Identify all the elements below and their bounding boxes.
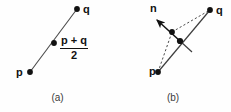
label-q-panel-b: q (216, 5, 223, 16)
segment-p-to-q (158, 10, 210, 72)
vector-midpoint-figure: p q p + q 2 (a) (0, 0, 231, 112)
label-q-panel-a: q (83, 4, 90, 15)
label-p-panel-a: p (16, 67, 23, 78)
label-p-panel-b: p (149, 66, 156, 77)
segment-p-to-upper-node (158, 32, 172, 72)
panel-b: p q n (b) (115, 0, 231, 112)
panel-a: p q p + q 2 (a) (0, 0, 115, 112)
arrow-normal-n (157, 20, 180, 41)
label-midpoint-denominator: 2 (60, 49, 88, 62)
point-p-dot (27, 69, 33, 75)
caption-panel-b: (b) (115, 92, 231, 103)
point-lower-node-dot (177, 38, 183, 44)
point-midpoint-dot (51, 40, 57, 46)
label-midpoint-fraction: p + q 2 (60, 35, 88, 61)
label-n-normal: n (150, 3, 157, 14)
segment-upper-node-to-q (172, 10, 210, 32)
label-midpoint-numerator: p + q (60, 35, 88, 49)
point-q-dot (207, 7, 213, 13)
caption-panel-a: (a) (0, 92, 115, 103)
point-upper-node-dot (169, 29, 175, 35)
point-q-dot (74, 6, 80, 12)
